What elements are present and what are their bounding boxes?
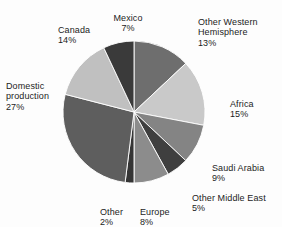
slice-label-other-middle-east: Other Middle East 5% — [192, 182, 282, 224]
slice-label-domestic-production-name: Domestic production — [6, 81, 49, 102]
slice-label-canada: Canada 14% — [58, 14, 110, 56]
slice-label-other: Other 2% — [100, 196, 140, 227]
slice-label-domestic-production: Domestic production 27% — [6, 70, 72, 123]
slice-label-africa-name: Africa — [230, 99, 254, 109]
slice-label-africa: Africa 15% — [230, 88, 280, 130]
slice-label-other-middle-east-pct: 5% — [192, 203, 282, 214]
slice-label-europe-name: Europe — [140, 207, 170, 217]
slice-label-other-middle-east-name: Other Middle East — [192, 193, 266, 203]
slice-label-other-name: Other — [100, 207, 123, 217]
pie-chart: Mexico 7% Other Western Hemisphere 13% A… — [0, 0, 282, 227]
slice-label-other-western-hemisphere-name: Other Western Hemisphere — [198, 17, 258, 38]
slice-label-mexico-name: Mexico — [113, 13, 142, 23]
slice-label-canada-pct: 14% — [58, 35, 110, 46]
slice-label-other-western-hemisphere: Other Western Hemisphere 13% — [198, 6, 280, 59]
slice-label-saudi-arabia-name: Saudi Arabia — [212, 163, 264, 173]
slice-label-africa-pct: 15% — [230, 109, 280, 120]
slice-label-domestic-production-pct: 27% — [6, 102, 72, 113]
slice-label-europe: Europe 8% — [140, 196, 184, 227]
slice-label-europe-pct: 8% — [140, 217, 184, 227]
slice-label-canada-name: Canada — [58, 25, 90, 35]
slice-label-other-western-hemisphere-pct: 13% — [198, 38, 280, 49]
slice-label-other-pct: 2% — [100, 217, 140, 227]
